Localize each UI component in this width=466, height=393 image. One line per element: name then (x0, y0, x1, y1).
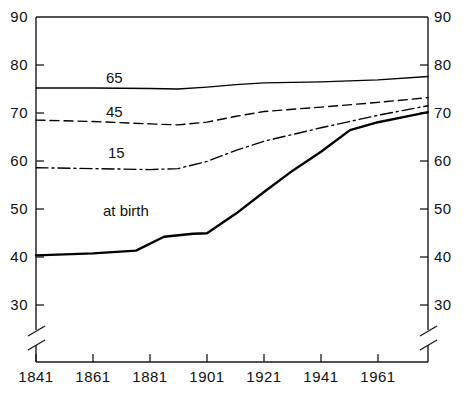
x-axis-label-1941: 1941 (299, 369, 343, 384)
y-axis-label-left-90: 90 (2, 9, 28, 24)
series-label-15: 15 (108, 145, 125, 160)
x-axis-label-1841: 1841 (14, 369, 58, 384)
y-axis-label-right-60: 60 (434, 153, 462, 168)
x-axis-label-1901: 1901 (185, 369, 229, 384)
x-axis-label-1961: 1961 (356, 369, 400, 384)
y-axis-label-left-80: 80 (2, 57, 28, 72)
y-axis-label-right-50: 50 (434, 201, 462, 216)
y-axis-label-left-60: 60 (2, 153, 28, 168)
x-axis-label-1861: 1861 (71, 369, 115, 384)
chart-frame (36, 17, 428, 362)
series-line-at-birth (36, 112, 428, 255)
series-label-65: 65 (106, 70, 123, 85)
series-line-15 (36, 106, 428, 170)
series-label-45: 45 (106, 104, 123, 119)
x-axis-label-1921: 1921 (242, 369, 286, 384)
axis-break-marks (28, 326, 437, 350)
y-axis-label-right-40: 40 (434, 249, 462, 264)
y-axis-label-right-80: 80 (434, 57, 462, 72)
series-line-65 (36, 77, 428, 90)
y-axis-label-right-70: 70 (434, 105, 462, 120)
y-axis-label-left-50: 50 (2, 201, 28, 216)
x-axis-label-1881: 1881 (128, 369, 172, 384)
y-axis-label-left-40: 40 (2, 249, 28, 264)
series-line-45 (36, 98, 428, 125)
y-axis-label-right-90: 90 (434, 9, 462, 24)
x-tick-marks (36, 354, 378, 362)
y-axis-label-left-30: 30 (2, 297, 28, 312)
y-tick-marks (36, 65, 428, 305)
y-axis-label-left-70: 70 (2, 105, 28, 120)
y-axis-label-right-30: 30 (434, 297, 462, 312)
series-label-at-birth: at birth (103, 203, 149, 218)
chart-plot-area (0, 0, 466, 393)
chart-figure: 90 80 70 60 50 40 30 90 80 70 60 50 40 3… (0, 0, 466, 393)
